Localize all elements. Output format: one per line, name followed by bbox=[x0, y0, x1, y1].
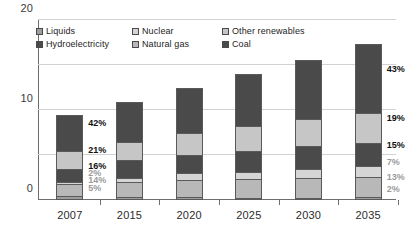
bar-segment-2030-hydroelectricity[interactable] bbox=[295, 146, 322, 169]
bar-segment-2007-other-renewables[interactable] bbox=[56, 151, 83, 169]
x-tick-2015 bbox=[159, 200, 160, 205]
value-label-2035-natural-gas: 13% bbox=[387, 172, 405, 182]
y-tick-label-10: 10 bbox=[21, 92, 33, 104]
bar-segment-2007-liquids[interactable] bbox=[56, 196, 83, 200]
bar-segment-2007-natural-gas[interactable] bbox=[56, 184, 83, 196]
legend-swatch-icon bbox=[36, 41, 43, 48]
x-tick-2030 bbox=[338, 200, 339, 205]
legend-item-nuclear[interactable]: Nuclear bbox=[132, 26, 222, 37]
bar-2007[interactable] bbox=[56, 115, 83, 200]
bar-segment-2015-natural-gas[interactable] bbox=[116, 182, 143, 198]
legend-item-hydroelectricity[interactable]: Hydroelectricity bbox=[36, 39, 132, 50]
bar-segment-2020-liquids[interactable] bbox=[176, 197, 203, 200]
bar-segment-2030-liquids[interactable] bbox=[295, 198, 322, 200]
legend-item-liquids[interactable]: Liquids bbox=[36, 26, 132, 37]
legend-label: Liquids bbox=[46, 26, 75, 37]
bar-2025[interactable] bbox=[235, 74, 262, 200]
bar-segment-2025-coal[interactable] bbox=[235, 74, 262, 126]
bar-segment-2007-coal[interactable] bbox=[56, 115, 83, 151]
legend-swatch-icon bbox=[36, 28, 43, 35]
legend-item-natural-gas[interactable]: Natural gas bbox=[132, 39, 222, 50]
x-axis-label-2035: 2035 bbox=[356, 209, 381, 221]
legend-item-coal[interactable]: Coal bbox=[222, 39, 336, 50]
value-label-2035-nuclear: 7% bbox=[387, 157, 400, 167]
x-tick-2025 bbox=[279, 200, 280, 205]
bar-segment-2025-hydroelectricity[interactable] bbox=[235, 151, 262, 172]
x-axis-label-2030: 2030 bbox=[296, 209, 321, 221]
bar-segment-2035-other-renewables[interactable] bbox=[355, 113, 382, 143]
gridline-40: 40 bbox=[38, 19, 396, 20]
bar-segment-2030-nuclear[interactable] bbox=[295, 169, 322, 178]
gridline-0: 0 bbox=[38, 199, 396, 200]
bar-segment-2015-coal[interactable] bbox=[116, 102, 143, 142]
bar-2020[interactable] bbox=[176, 88, 203, 200]
bar-segment-2020-nuclear[interactable] bbox=[176, 173, 203, 180]
x-tick-2007 bbox=[100, 200, 101, 205]
bar-segment-2025-natural-gas[interactable] bbox=[235, 179, 262, 197]
bar-segment-2015-liquids[interactable] bbox=[116, 197, 143, 200]
bar-segment-2020-other-renewables[interactable] bbox=[176, 133, 203, 155]
x-tick-2035 bbox=[398, 200, 399, 205]
bar-segment-2035-natural-gas[interactable] bbox=[355, 177, 382, 197]
y-tick-label-20: 20 bbox=[21, 2, 33, 14]
bar-segment-2020-coal[interactable] bbox=[176, 88, 203, 133]
bar-segment-2015-nuclear[interactable] bbox=[116, 178, 143, 182]
bar-2015[interactable] bbox=[116, 102, 143, 200]
y-tick-label-0: 0 bbox=[27, 182, 33, 194]
bar-segment-2020-natural-gas[interactable] bbox=[176, 180, 203, 197]
bar-2035[interactable] bbox=[355, 44, 382, 200]
value-label-2007-coal: 42% bbox=[88, 118, 106, 128]
value-label-2035-coal: 43% bbox=[387, 64, 405, 74]
value-label-2007-other-renewables: 21% bbox=[88, 145, 106, 155]
legend-label: Natural gas bbox=[142, 39, 189, 50]
value-label-2007-hydroelectricity: 16% bbox=[88, 161, 106, 171]
bar-segment-2035-liquids[interactable] bbox=[355, 197, 382, 200]
chart-legend: LiquidsNuclearOther renewablesHydroelect… bbox=[36, 26, 336, 50]
x-axis-label-2015: 2015 bbox=[117, 209, 142, 221]
bar-segment-2035-nuclear[interactable] bbox=[355, 166, 382, 177]
legend-swatch-icon bbox=[222, 41, 229, 48]
legend-swatch-icon bbox=[132, 41, 139, 48]
x-tick-2020 bbox=[219, 200, 220, 205]
bar-segment-2035-hydroelectricity[interactable] bbox=[355, 143, 382, 166]
bar-segment-2030-other-renewables[interactable] bbox=[295, 119, 322, 146]
bar-segment-2025-liquids[interactable] bbox=[235, 198, 262, 200]
x-axis-label-2007: 2007 bbox=[57, 209, 82, 221]
bar-segment-2035-coal[interactable] bbox=[355, 44, 382, 113]
bar-segment-2025-nuclear[interactable] bbox=[235, 172, 262, 180]
bar-segment-2025-other-renewables[interactable] bbox=[235, 126, 262, 151]
bar-segment-2015-other-renewables[interactable] bbox=[116, 142, 143, 160]
value-label-2035-other-renewables: 19% bbox=[387, 113, 405, 123]
bar-2030[interactable] bbox=[295, 60, 322, 200]
legend-swatch-icon bbox=[222, 28, 229, 35]
bar-segment-2030-coal[interactable] bbox=[295, 60, 322, 119]
gridline-30: 30 bbox=[38, 64, 396, 65]
bar-segment-2020-hydroelectricity[interactable] bbox=[176, 155, 203, 174]
bar-segment-2007-nuclear[interactable] bbox=[56, 182, 83, 184]
legend-item-other-renewables[interactable]: Other renewables bbox=[222, 26, 336, 37]
value-label-2035-hydroelectricity: 15% bbox=[387, 140, 405, 150]
x-axis-label-2025: 2025 bbox=[236, 209, 261, 221]
bar-segment-2007-hydroelectricity[interactable] bbox=[56, 169, 83, 183]
legend-label: Other renewables bbox=[232, 26, 305, 37]
x-axis-label-2020: 2020 bbox=[177, 209, 202, 221]
gridline-20: 20 bbox=[38, 109, 396, 110]
legend-swatch-icon bbox=[132, 28, 139, 35]
value-label-2035-liquids: 2% bbox=[387, 184, 400, 194]
legend-label: Hydroelectricity bbox=[46, 39, 109, 50]
legend-label: Nuclear bbox=[142, 26, 174, 37]
bar-segment-2015-hydroelectricity[interactable] bbox=[116, 160, 143, 178]
legend-label: Coal bbox=[232, 39, 251, 50]
bar-segment-2030-natural-gas[interactable] bbox=[295, 178, 322, 197]
